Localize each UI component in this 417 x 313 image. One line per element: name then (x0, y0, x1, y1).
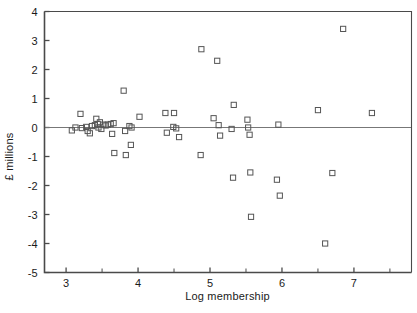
data-point (171, 110, 176, 115)
data-point (123, 128, 128, 133)
x-axis-tick-labels: 34567 (63, 277, 357, 289)
data-point (276, 122, 281, 127)
data-point (247, 132, 252, 137)
svg-text:5: 5 (207, 277, 213, 289)
data-point (245, 117, 250, 122)
data-point (112, 150, 117, 155)
data-point (110, 131, 115, 136)
data-point (215, 58, 220, 63)
data-point (176, 134, 181, 139)
data-point (211, 116, 216, 121)
svg-text:4: 4 (135, 277, 141, 289)
data-point (137, 114, 142, 119)
data-point (330, 170, 335, 175)
svg-text:-4: -4 (28, 238, 38, 250)
data-point (164, 130, 169, 135)
y-axis-tick-labels: -5-4-3-2-101234 (28, 6, 38, 279)
data-point (217, 133, 222, 138)
svg-text:1: 1 (31, 93, 37, 105)
data-point (78, 111, 83, 116)
scatter-plot-figure: £ millions Log membership -5-4-3-2-10123… (0, 0, 417, 313)
data-point (323, 241, 328, 246)
svg-text:7: 7 (351, 277, 357, 289)
data-point (369, 110, 374, 115)
data-point (230, 175, 235, 180)
data-point (231, 102, 236, 107)
data-point (163, 110, 168, 115)
data-point (123, 152, 128, 157)
data-point (274, 177, 279, 182)
data-points (69, 26, 374, 246)
plot-canvas: -5-4-3-2-101234 34567 (0, 0, 417, 313)
svg-text:4: 4 (31, 6, 37, 18)
data-point (128, 142, 133, 147)
svg-text:3: 3 (31, 35, 37, 47)
svg-text:-2: -2 (28, 180, 38, 192)
svg-text:0: 0 (31, 122, 37, 134)
data-point (121, 88, 126, 93)
data-point (248, 170, 253, 175)
data-point (198, 152, 203, 157)
svg-text:-1: -1 (28, 151, 38, 163)
data-point (315, 108, 320, 113)
svg-text:2: 2 (31, 64, 37, 76)
data-point (341, 26, 346, 31)
axes-frame (45, 12, 412, 273)
svg-text:3: 3 (63, 277, 69, 289)
svg-text:-5: -5 (28, 267, 38, 279)
svg-text:6: 6 (279, 277, 285, 289)
data-point (94, 116, 99, 121)
svg-text:-3: -3 (28, 209, 38, 221)
data-point (277, 193, 282, 198)
data-point (199, 47, 204, 52)
data-point (248, 214, 253, 219)
